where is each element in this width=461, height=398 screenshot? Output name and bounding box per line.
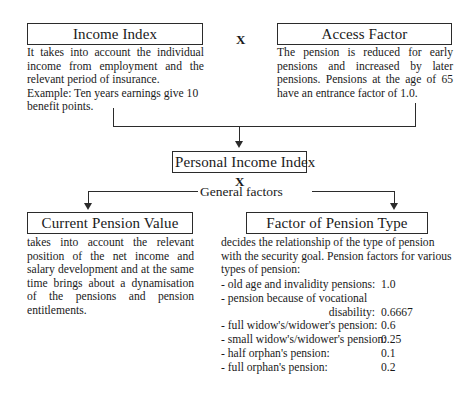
factor-value: 0.2: [381, 361, 396, 375]
node-access-factor-heading: Access Factor: [277, 23, 452, 45]
factor-label: - old age and invalidity pensions:: [221, 278, 381, 292]
node-factor-of-pension-type-intro: decides the relationship of the type of …: [221, 236, 453, 277]
factor-label: - full widow's/widower's pension:: [221, 319, 381, 333]
connector-income-index-riser: [113, 108, 114, 127]
income-index-paragraph-2: Example: Ten years earnings give 10 bene…: [27, 87, 204, 114]
factor-row: - half orphan's pension: 0.1: [221, 347, 457, 361]
node-access-factor-body: The pension is reduced for early pension…: [277, 46, 453, 100]
factor-value: 0.25: [381, 333, 401, 347]
connector-general-factors-right-bar: [312, 191, 394, 192]
factor-value: 0.1: [381, 347, 396, 361]
factor-label: - full orphan's pension:: [221, 361, 381, 375]
access-factor-paragraph-1: The pension is reduced for early pension…: [277, 46, 453, 100]
factor-label: - half orphan's pension:: [221, 347, 381, 361]
factor-of-pension-type-intro-text: decides the relationship of the type of …: [221, 236, 453, 277]
node-income-index-body: It takes into account the individual inc…: [27, 46, 204, 114]
pension-factor-list: - old age and invalidity pensions: 1.0 -…: [221, 278, 457, 375]
connector-access-factor-riser: [415, 103, 416, 127]
node-income-index-heading: Income Index: [27, 23, 203, 45]
current-pension-value-paragraph-1: takes into account the relevant position…: [27, 236, 194, 318]
factor-row: disability: 0.6667: [221, 306, 457, 320]
factor-row: - old age and invalidity pensions: 1.0: [221, 278, 457, 292]
factor-label: disability:: [221, 306, 381, 320]
factor-label: - pension because of vocational: [221, 292, 381, 306]
node-personal-income-index-heading: Personal Income Index: [172, 151, 307, 173]
factor-label: - small widow's/widower's pension:: [221, 333, 381, 347]
node-factor-of-pension-type-heading: Factor of Pension Type: [246, 212, 428, 234]
arrow-to-current-pension-value: [84, 203, 92, 210]
arrow-to-factor-of-pension-type: [390, 203, 398, 210]
diagram-canvas: Income Index It takes into account the i…: [0, 0, 461, 398]
node-current-pension-value-body: takes into account the relevant position…: [27, 236, 194, 318]
factor-row: - full orphan's pension: 0.2: [221, 361, 457, 375]
factor-value: 1.0: [381, 278, 396, 292]
general-factors-label: General factors: [200, 184, 283, 199]
factor-value: 0.6667: [381, 306, 413, 320]
factor-row: - pension because of vocational: [221, 292, 457, 306]
arrow-to-personal-income-index: [235, 141, 243, 148]
factor-value: 0.6: [381, 319, 396, 333]
node-current-pension-value-heading: Current Pension Value: [27, 212, 193, 234]
factor-row: - full widow's/widower's pension: 0.6: [221, 319, 457, 333]
factor-row: - small widow's/widower's pension: 0.25: [221, 333, 457, 347]
connector-merge-bar: [113, 126, 416, 127]
connector-general-factors-left-bar: [88, 191, 198, 192]
top-multiply-operator: X: [236, 33, 245, 46]
income-index-paragraph-1: It takes into account the individual inc…: [27, 46, 204, 87]
